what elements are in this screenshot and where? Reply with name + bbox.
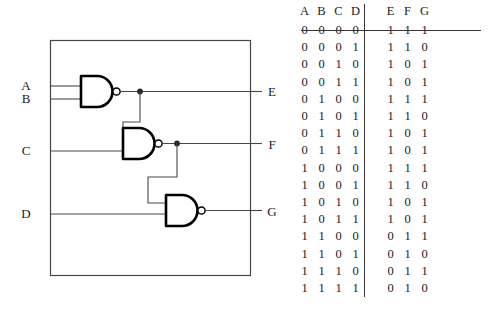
- table-header-row: A B C D E F G: [296, 4, 433, 22]
- table-cell-input: 1: [296, 160, 313, 177]
- table-cell-input: 0: [330, 246, 347, 263]
- table-cell-output: 1: [416, 160, 433, 177]
- table-cell-output: 0: [416, 280, 433, 297]
- table-cell-output: 1: [399, 39, 416, 56]
- table-cell-output: 0: [399, 56, 416, 73]
- table-row: 1101010: [296, 246, 433, 263]
- table-row: 1011101: [296, 211, 433, 228]
- table-divider-cell: [365, 211, 383, 228]
- table-row: 0110101: [296, 125, 433, 142]
- table-cell-input: 1: [296, 228, 313, 245]
- table-cell-output: 1: [382, 108, 399, 125]
- table-cell-output: 1: [382, 211, 399, 228]
- table-divider-cell: [365, 228, 383, 245]
- truth-table-grid: A B C D E F G 00001110001110001010100111…: [296, 4, 433, 297]
- column-header-f: F: [399, 4, 416, 22]
- label-input-c: C: [22, 143, 31, 158]
- table-divider-cell: [365, 142, 383, 159]
- table-header-rule: [301, 30, 481, 31]
- table-cell-input: 1: [347, 177, 365, 194]
- table-cell-output: 1: [382, 39, 399, 56]
- table-cell-input: 1: [330, 142, 347, 159]
- table-cell-output: 1: [382, 142, 399, 159]
- table-cell-input: 0: [313, 39, 330, 56]
- table-cell-input: 0: [347, 160, 365, 177]
- column-header-a: A: [296, 4, 313, 22]
- table-cell-input: 1: [296, 194, 313, 211]
- table-cell-input: 1: [347, 39, 365, 56]
- table-divider-cell: [365, 108, 383, 125]
- table-cell-output: 1: [416, 263, 433, 280]
- table-row: 1110011: [296, 263, 433, 280]
- label-output-g: G: [267, 204, 276, 219]
- table-cell-input: 0: [296, 39, 313, 56]
- table-cell-output: 1: [382, 56, 399, 73]
- table-cell-output: 0: [382, 246, 399, 263]
- table-cell-input: 0: [347, 263, 365, 280]
- column-header-c: C: [330, 4, 347, 22]
- table-cell-input: 0: [313, 177, 330, 194]
- table-cell-input: 1: [313, 246, 330, 263]
- table-cell-input: 0: [347, 56, 365, 73]
- table-cell-output: 1: [399, 246, 416, 263]
- circuit-svg: A B C D E F G: [0, 0, 290, 330]
- table-divider-cell: [365, 280, 383, 297]
- table-divider-cell: [365, 56, 383, 73]
- table-cell-input: 1: [313, 263, 330, 280]
- table-cell-input: 1: [330, 263, 347, 280]
- table-divider-cell: [365, 177, 383, 194]
- table-divider-cell: [365, 39, 383, 56]
- table-divider-cell: [365, 125, 383, 142]
- table-cell-output: 1: [416, 228, 433, 245]
- nand-gate-2-bubble: [155, 140, 162, 147]
- table-cell-output: 1: [416, 142, 433, 159]
- table-cell-input: 0: [330, 91, 347, 108]
- table-cell-input: 1: [313, 125, 330, 142]
- circuit-diagram: A B C D E F G: [0, 0, 290, 330]
- table-cell-output: 0: [416, 39, 433, 56]
- table-row: 1000111: [296, 160, 433, 177]
- table-cell-input: 1: [296, 246, 313, 263]
- table-cell-input: 1: [330, 211, 347, 228]
- table-row: 1010101: [296, 194, 433, 211]
- label-input-b: B: [22, 91, 31, 106]
- table-cell-output: 1: [416, 125, 433, 142]
- table-cell-input: 1: [313, 91, 330, 108]
- table-cell-input: 1: [347, 211, 365, 228]
- table-cell-input: 0: [296, 125, 313, 142]
- table-cell-output: 1: [382, 177, 399, 194]
- table-cell-output: 1: [399, 228, 416, 245]
- column-header-g: G: [416, 4, 433, 22]
- table-row: 0111101: [296, 142, 433, 159]
- table-cell-input: 0: [296, 108, 313, 125]
- table-cell-output: 1: [399, 160, 416, 177]
- table-divider-cell: [365, 91, 383, 108]
- table-cell-input: 1: [313, 142, 330, 159]
- table-cell-input: 1: [296, 263, 313, 280]
- table-cell-output: 0: [399, 211, 416, 228]
- label-output-f: F: [268, 137, 275, 152]
- table-row: 0011101: [296, 74, 433, 91]
- table-divider-cell: [365, 246, 383, 263]
- nand-gate-3-bubble: [198, 207, 205, 214]
- table-cell-input: 1: [296, 177, 313, 194]
- table-cell-input: 1: [330, 280, 347, 297]
- table-cell-input: 1: [347, 74, 365, 91]
- table-cell-input: 1: [347, 142, 365, 159]
- table-cell-input: 1: [347, 280, 365, 297]
- table-cell-output: 0: [416, 108, 433, 125]
- table-cell-input: 1: [347, 108, 365, 125]
- table-cell-input: 0: [313, 194, 330, 211]
- table-cell-input: 1: [296, 280, 313, 297]
- column-header-d: D: [347, 4, 365, 22]
- table-cell-output: 1: [399, 91, 416, 108]
- table-cell-input: 1: [313, 280, 330, 297]
- table-row: 1111010: [296, 280, 433, 297]
- table-cell-input: 0: [347, 228, 365, 245]
- table-divider-header: [365, 4, 383, 22]
- table-divider-cell: [365, 194, 383, 211]
- table-cell-output: 1: [416, 211, 433, 228]
- table-cell-output: 1: [399, 263, 416, 280]
- table-cell-input: 1: [330, 125, 347, 142]
- column-header-e: E: [382, 4, 399, 22]
